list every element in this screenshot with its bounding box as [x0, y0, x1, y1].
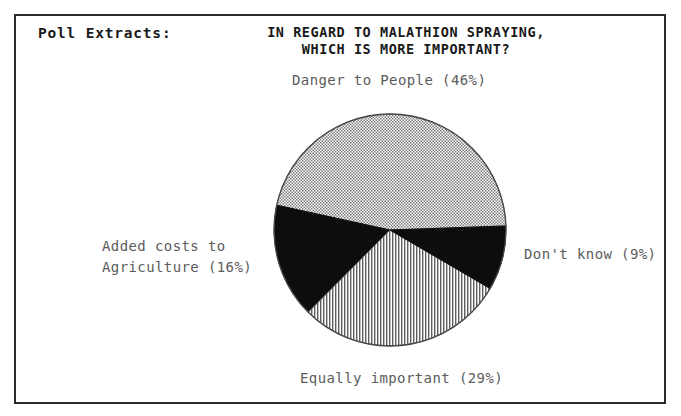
pie-label-added-costs-line-2: Agriculture (16%) [102, 257, 252, 278]
pie-label-equally-important: Equally important (29%) [300, 368, 503, 389]
pie-chart-area: Danger to People (46%) Don't know (9%) E… [16, 16, 664, 402]
pie-label-added-costs-line-1: Added costs to [102, 236, 252, 257]
pie-chart [260, 100, 528, 368]
poll-panel: Poll Extracts: IN REGARD TO MALATHION SP… [14, 14, 666, 404]
pie-label-added-costs: Added costs to Agriculture (16%) [102, 236, 252, 278]
pie-label-danger-to-people: Danger to People (46%) [292, 70, 486, 91]
pie-label-dont-know: Don't know (9%) [524, 244, 656, 265]
